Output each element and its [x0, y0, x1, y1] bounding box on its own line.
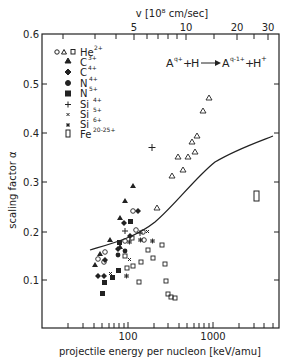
- svg-text:A: A: [166, 57, 174, 70]
- svg-text:+: +: [261, 55, 267, 63]
- reaction-equation: A q+ + H A q-1+ + H +: [166, 55, 267, 70]
- series-c3: [92, 183, 136, 267]
- legend: [55, 50, 75, 138]
- top-axis-ticks: [63, 34, 268, 40]
- svg-text:Fe: Fe: [80, 129, 91, 140]
- bottom-axis-labels: 100 1000: [118, 331, 225, 342]
- svg-text:q-1+: q-1+: [230, 55, 245, 63]
- plot-frame: [42, 34, 279, 328]
- svg-text:H: H: [191, 57, 199, 70]
- chart: 5 10 20 30 v [10⁸ cm/sec] 100 1000 proje…: [0, 0, 289, 362]
- svg-text:6+: 6+: [93, 116, 102, 123]
- svg-text:4+: 4+: [88, 64, 97, 71]
- svg-text:30: 30: [262, 22, 275, 33]
- svg-text:0.6: 0.6: [23, 29, 39, 40]
- series-fe: [254, 191, 259, 201]
- svg-text:5: 5: [131, 22, 137, 33]
- svg-text:3+: 3+: [88, 54, 97, 61]
- svg-text:q+: q+: [174, 55, 183, 63]
- svg-text:5+: 5+: [93, 106, 102, 113]
- svg-text:100: 100: [118, 331, 137, 342]
- legend-labels: He2+ C3+ C4+ N4+ N5+ Si4+ Si5+ Si6+ Fe20…: [80, 44, 115, 140]
- svg-text:1000: 1000: [200, 331, 225, 342]
- svg-text:10: 10: [180, 22, 193, 33]
- x-axis-title: projectile energy per nucleon [keV/amu]: [59, 346, 261, 357]
- svg-text:5+: 5+: [89, 85, 98, 92]
- svg-text:A: A: [222, 57, 230, 70]
- theory-curve: [90, 136, 273, 250]
- series-he-triangles: [154, 95, 212, 210]
- top-axis-title: v [10⁸ cm/sec]: [136, 8, 208, 19]
- svg-text:4+: 4+: [93, 96, 102, 103]
- svg-text:C: C: [80, 67, 87, 78]
- svg-text:20: 20: [231, 22, 244, 33]
- y-axis-labels: 0.5 0.4 0.3 0.2 0.1 0.6: [23, 29, 39, 286]
- y-axis-ticks: [42, 84, 279, 280]
- svg-text:0.5: 0.5: [23, 79, 39, 90]
- svg-text:N: N: [80, 88, 87, 99]
- svg-text:0.3: 0.3: [23, 177, 39, 188]
- bottom-axis-ticks: [68, 322, 273, 328]
- svg-text:0.4: 0.4: [23, 128, 39, 139]
- svg-text:20-25+: 20-25+: [93, 126, 115, 133]
- series-he-squares: [123, 236, 177, 300]
- top-axis-labels: 5 10 20 30: [131, 22, 275, 33]
- series-si4: [122, 144, 156, 236]
- y-axis-title: scaling factor α: [7, 151, 18, 229]
- svg-text:4+: 4+: [89, 75, 98, 82]
- svg-text:0.1: 0.1: [23, 275, 39, 286]
- svg-text:2+: 2+: [94, 44, 103, 51]
- svg-text:0.2: 0.2: [23, 227, 39, 238]
